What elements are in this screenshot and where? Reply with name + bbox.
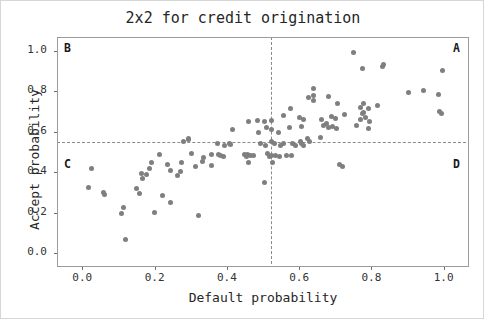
data-point (121, 205, 126, 210)
x-tick-label: 1.0 (434, 271, 454, 284)
data-point (262, 119, 267, 124)
data-point (119, 211, 124, 216)
data-point (366, 106, 371, 111)
data-point (165, 162, 170, 167)
data-point (209, 152, 214, 157)
data-point (168, 168, 173, 173)
data-point (140, 176, 145, 181)
data-point (277, 154, 282, 159)
data-point (366, 126, 371, 131)
data-point (256, 130, 261, 135)
data-point (230, 127, 235, 132)
data-point (281, 141, 286, 146)
data-point (270, 160, 275, 165)
data-point (179, 160, 184, 165)
data-point (209, 163, 214, 168)
data-point (361, 101, 366, 106)
y-tick-mark (54, 132, 57, 133)
data-point (342, 112, 347, 117)
quadrant-label-b: B (64, 41, 71, 55)
data-point (263, 143, 268, 148)
data-point (193, 164, 198, 169)
data-point (293, 143, 298, 148)
scatter-plot-area: B A C D (57, 37, 469, 267)
data-point (269, 127, 274, 132)
data-point (311, 93, 316, 98)
x-tick-mark (155, 267, 156, 270)
data-point (181, 139, 186, 144)
data-point (351, 50, 356, 55)
data-point (281, 113, 286, 118)
data-point (144, 172, 149, 177)
quadrant-label-c: C (64, 157, 71, 171)
data-point (340, 164, 345, 169)
data-point (333, 116, 338, 121)
data-point (258, 141, 263, 146)
data-point (147, 166, 152, 171)
x-tick-mark (371, 267, 372, 270)
data-point (306, 95, 311, 100)
quadrant-label-a: A (453, 41, 460, 55)
data-point (381, 62, 386, 67)
quadrant-label-d: D (453, 157, 460, 171)
data-point (102, 192, 107, 197)
x-tick-label: 0.4 (217, 271, 237, 284)
x-tick-label: 0.6 (289, 271, 309, 284)
x-axis-label: Default probability (57, 290, 469, 305)
data-point (439, 111, 444, 116)
data-point (157, 152, 162, 157)
data-point (367, 119, 372, 124)
data-point (152, 210, 157, 215)
data-point (189, 151, 194, 156)
data-point (221, 154, 226, 159)
data-point (137, 191, 142, 196)
data-point (307, 139, 312, 144)
data-point (360, 66, 365, 71)
data-point (200, 159, 205, 164)
y-tick-mark (54, 51, 57, 52)
data-point (421, 88, 426, 93)
data-point (301, 143, 306, 148)
data-point (326, 94, 331, 99)
data-point (246, 119, 251, 124)
data-point (251, 153, 256, 158)
data-point (299, 124, 304, 129)
data-point (335, 101, 340, 106)
y-axis-label: Accept probability (27, 45, 42, 275)
data-point (269, 118, 274, 123)
data-point (287, 125, 292, 130)
x-tick-label: 0.0 (72, 271, 92, 284)
data-point (196, 213, 201, 218)
data-point (276, 130, 281, 135)
data-point (318, 135, 323, 140)
data-point (139, 171, 144, 176)
data-point (301, 117, 306, 122)
data-point (246, 160, 251, 165)
x-tick-label: 0.8 (361, 271, 381, 284)
data-point (311, 86, 316, 91)
data-point (215, 141, 220, 146)
data-point (228, 142, 233, 147)
y-tick-mark (54, 253, 57, 254)
data-point (123, 237, 128, 242)
data-point (86, 185, 91, 190)
x-tick-mark (82, 267, 83, 270)
x-tick-mark (444, 267, 445, 270)
data-point (149, 160, 154, 165)
data-point (89, 166, 94, 171)
data-point (440, 68, 445, 73)
data-point (255, 118, 260, 123)
y-tick-mark (54, 91, 57, 92)
data-point (272, 141, 277, 146)
y-tick-mark (54, 172, 57, 173)
data-point (160, 193, 165, 198)
x-tick-mark (227, 267, 228, 270)
data-point (375, 103, 380, 108)
data-point (264, 125, 269, 130)
chart-title: 2x2 for credit origination (1, 9, 484, 27)
chart-figure: 2x2 for credit origination B A C D 0.00.… (0, 0, 484, 319)
data-point (334, 126, 339, 131)
data-point (262, 180, 267, 185)
y-tick-mark (54, 213, 57, 214)
data-point (175, 173, 180, 178)
